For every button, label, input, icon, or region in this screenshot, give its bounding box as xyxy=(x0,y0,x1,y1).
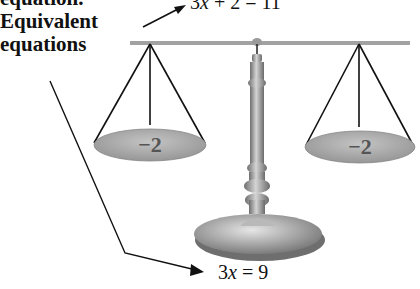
bottom-equation-variable: x xyxy=(228,261,237,283)
bottom-equation-coefficient: 3 xyxy=(218,261,228,283)
top-equation-rest: + 2 = 11 xyxy=(209,0,281,13)
bottom-equation-rest: = 9 xyxy=(237,261,268,283)
scale-stand xyxy=(194,44,325,261)
beam xyxy=(130,38,410,46)
cut-off-label: equation. xyxy=(0,0,83,9)
arrow-to-bottom-equation xyxy=(50,81,204,276)
top-equation-variable: x xyxy=(200,0,209,13)
balance-scale-diagram: −2 −2 xyxy=(0,0,420,289)
right-pan: −2 xyxy=(305,131,415,163)
left-pan-strings xyxy=(94,44,205,143)
equivalent-label: Equivalent xyxy=(0,10,98,32)
right-pan-label: −2 xyxy=(348,134,372,159)
right-pan-strings xyxy=(306,44,413,145)
left-pan: −2 xyxy=(94,129,206,161)
arrow-to-top-equation xyxy=(143,5,186,27)
top-equation: 3x + 2 = 11 xyxy=(190,0,281,12)
top-equation-coefficient: 3 xyxy=(190,0,200,13)
bottom-equation: 3x = 9 xyxy=(218,262,268,282)
equations-label: equations xyxy=(0,33,86,55)
left-pan-label: −2 xyxy=(138,132,162,157)
